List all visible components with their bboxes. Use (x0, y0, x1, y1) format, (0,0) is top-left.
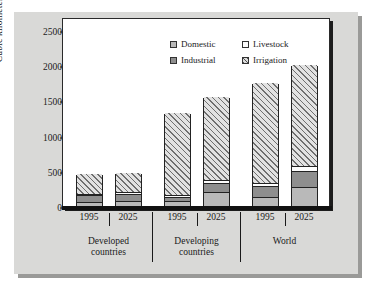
bar-developed-1995 (76, 175, 103, 208)
legend-row: Industrial Irrigation (170, 52, 320, 68)
chart-root: Cubic kilometers 2500 2000 1500 1000 500… (0, 0, 378, 292)
bar-segment-irrigation (292, 65, 317, 167)
legend-label: Livestock (253, 39, 289, 49)
bar-developed-2025 (115, 174, 142, 208)
bar-segment-irrigation (204, 97, 229, 181)
legend-item-domestic: Domestic (170, 39, 242, 49)
legend-row: Domestic Livestock (170, 36, 320, 52)
x-tick-label: 2025 (119, 212, 138, 222)
bar-developing-1995 (164, 114, 191, 208)
axis-group-separator (240, 212, 241, 262)
x-axis-group-labels: DevelopedcountriesDevelopingcountriesWor… (62, 236, 330, 270)
bar-segment-irrigation (77, 174, 102, 195)
y-tick-label: 1000 (16, 133, 62, 143)
legend-item-livestock: Livestock (242, 39, 314, 49)
x-axis-labels: 199520251995202519952025 (62, 212, 330, 232)
bar-segment-irrigation (165, 113, 190, 196)
x-axis-baseline (62, 206, 332, 210)
livestock-swatch-icon (242, 41, 249, 48)
y-tick-label: 1500 (16, 97, 62, 107)
x-group-label-line: countries (174, 247, 218, 258)
bar-world-1995 (252, 84, 279, 208)
x-tick-label: 1995 (168, 212, 187, 222)
y-tick-label: 2500 (16, 27, 62, 37)
x-group-label-line: Developed (88, 236, 129, 247)
legend-item-industrial: Industrial (170, 55, 242, 65)
bar-segment-industrial (253, 187, 278, 198)
axis-separator (285, 213, 286, 226)
domestic-swatch-icon (170, 41, 177, 48)
legend-label: Irrigation (253, 55, 287, 65)
x-group-label-line: countries (88, 247, 129, 258)
y-tick-label: 0 (16, 203, 62, 213)
bar-segment-industrial (204, 184, 229, 193)
bar-segment-irrigation (253, 83, 278, 184)
y-tick-label: 2000 (16, 62, 62, 72)
bar-world-2025 (291, 66, 318, 208)
x-group-label: Developedcountries (88, 236, 129, 258)
x-group-label: World (273, 236, 297, 247)
bar-developing-2025 (203, 98, 230, 208)
x-group-label-line: Developing (174, 236, 218, 247)
legend-item-irrigation: Irrigation (242, 55, 314, 65)
bar-segment-industrial (292, 172, 317, 188)
bar-segment-industrial (116, 195, 141, 202)
x-group-label-line: World (273, 236, 297, 247)
x-group-label: Developingcountries (174, 236, 218, 258)
bar-segment-domestic (204, 193, 229, 207)
bar-segment-industrial (77, 196, 102, 203)
x-tick-label: 2025 (207, 212, 226, 222)
chart-legend: Domestic Livestock Industrial Irrigation (170, 36, 320, 68)
x-tick-label: 2025 (295, 212, 314, 222)
legend-label: Domestic (181, 39, 216, 49)
axis-group-separator (152, 212, 153, 262)
irrigation-swatch-icon (242, 57, 249, 64)
bar-segment-domestic (292, 188, 317, 207)
y-axis-title: Cubic kilometers (0, 0, 4, 88)
x-tick-label: 1995 (256, 212, 275, 222)
y-axis-tick-labels: 2500 2000 1500 1000 500 0 (16, 18, 62, 208)
x-tick-label: 1995 (80, 212, 99, 222)
legend-label: Industrial (181, 55, 216, 65)
bar-segment-irrigation (116, 173, 141, 194)
y-tick-label: 500 (16, 168, 62, 178)
industrial-swatch-icon (170, 57, 177, 64)
axis-separator (109, 213, 110, 226)
axis-separator (197, 213, 198, 226)
